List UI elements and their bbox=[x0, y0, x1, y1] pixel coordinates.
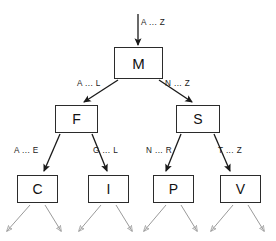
diagram-edges-layer bbox=[0, 0, 276, 241]
node-f[interactable]: F bbox=[55, 105, 98, 133]
leaf-arrow-v-right bbox=[248, 205, 264, 231]
node-f-label: F bbox=[72, 112, 81, 126]
edge-label-m-to-s: N ... Z bbox=[165, 80, 190, 88]
node-v-label: V bbox=[236, 182, 245, 196]
edge-f-to-c bbox=[44, 134, 60, 171]
edge-label-s-to-p: N ... R bbox=[146, 147, 172, 155]
leaf-arrow-p-left bbox=[144, 205, 166, 231]
node-v[interactable]: V bbox=[220, 175, 261, 203]
edge-label-f-to-i: G ... L bbox=[93, 147, 118, 155]
node-i-label: I bbox=[107, 182, 111, 196]
node-i[interactable]: I bbox=[88, 175, 129, 203]
edge-label-m-to-f: A ... L bbox=[77, 80, 101, 88]
node-m-label: M bbox=[132, 55, 145, 70]
node-c[interactable]: C bbox=[17, 175, 58, 203]
btree-diagram: M F S C I P V A ... Z A ... L N ... Z A … bbox=[0, 0, 276, 241]
node-s-label: S bbox=[193, 112, 202, 126]
node-c-label: C bbox=[32, 182, 42, 196]
leaf-arrow-c-left bbox=[7, 205, 30, 231]
leaf-arrow-v-left bbox=[211, 205, 233, 231]
leaf-arrow-i-left bbox=[79, 205, 101, 231]
node-s[interactable]: S bbox=[176, 105, 220, 133]
node-m[interactable]: M bbox=[114, 47, 163, 79]
leaf-arrow-i-right bbox=[116, 205, 132, 231]
edge-label-f-to-c: A ... E bbox=[14, 147, 39, 155]
edge-label-s-to-v: T ... Z bbox=[218, 147, 242, 155]
leaf-arrow-c-right bbox=[45, 205, 61, 231]
node-p-label: P bbox=[169, 182, 178, 196]
leaf-arrow-p-right bbox=[181, 205, 197, 231]
node-p[interactable]: P bbox=[153, 175, 194, 203]
edge-label-root-entry: A ... Z bbox=[141, 19, 165, 27]
